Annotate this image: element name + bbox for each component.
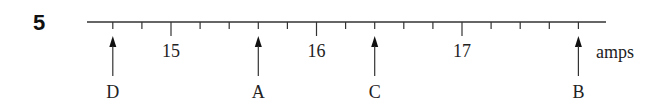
- pointer-label: D: [106, 82, 119, 102]
- pointer-label: A: [252, 82, 265, 102]
- arrow-up-icon: [371, 36, 378, 47]
- pointer-label: C: [369, 82, 381, 102]
- unit-label: amps: [596, 42, 634, 62]
- arrow-up-icon: [255, 36, 262, 47]
- major-tick-label: 17: [453, 41, 471, 61]
- major-tick-label: 15: [162, 41, 180, 61]
- pointer-c: C: [369, 36, 381, 102]
- major-tick-label: 16: [308, 41, 326, 61]
- major-labels: 151617: [162, 41, 471, 61]
- arrow-up-icon: [109, 36, 116, 47]
- arrow-up-icon: [575, 36, 582, 47]
- tick-marks: [113, 22, 579, 36]
- number-line-diagram: 151617 DACB amps: [0, 0, 672, 108]
- pointer-b: B: [572, 36, 584, 102]
- pointer-label: B: [572, 82, 584, 102]
- pointer-d: D: [106, 36, 119, 102]
- pointer-a: A: [252, 36, 265, 102]
